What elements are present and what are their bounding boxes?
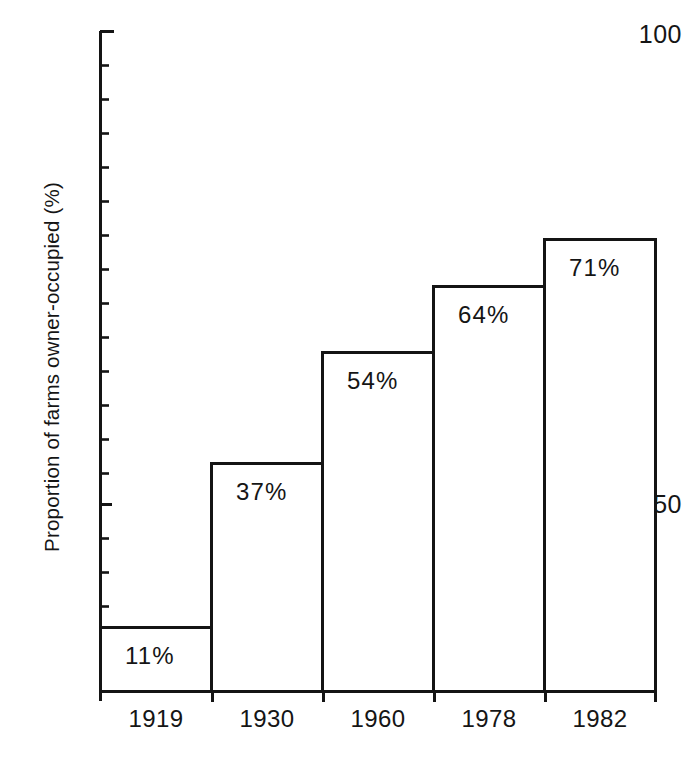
bar-value-1919: 11% — [125, 644, 175, 668]
bar-value-1982: 71% — [569, 256, 621, 280]
bar-1982[interactable] — [545, 240, 656, 692]
x-tick-label-1978: 1978 — [433, 707, 545, 731]
plot-area — [0, 0, 691, 757]
x-tick-label-1930: 1930 — [211, 707, 323, 731]
bar-value-1930: 37% — [236, 480, 288, 504]
bar-value-1978: 64% — [458, 303, 510, 327]
bar-1978[interactable] — [434, 287, 546, 692]
x-tick-label-1982: 1982 — [544, 707, 656, 731]
x-tick-label-1919: 1919 — [100, 707, 212, 731]
bar-chart: Proportion of farms owner-occupied (%) 1… — [0, 0, 691, 757]
bar-value-1960: 54% — [347, 369, 399, 393]
bar-1960[interactable] — [323, 353, 435, 692]
x-tick-label-1960: 1960 — [322, 707, 434, 731]
bar-series — [101, 240, 656, 692]
